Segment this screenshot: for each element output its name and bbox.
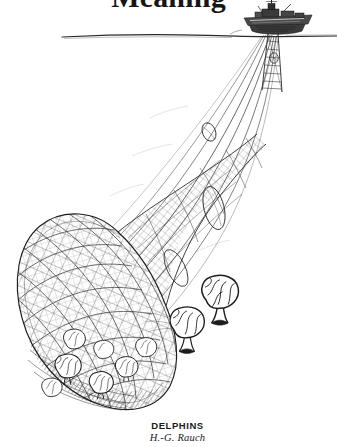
sea-surface-horizon (62, 35, 337, 39)
delphins-illustration (0, 0, 337, 447)
caption-artist-name: H.-G. Rauch (18, 432, 337, 444)
artwork-caption: DELPHINS H.-G. Rauch (0, 420, 337, 444)
trawler-ship (230, 0, 312, 35)
caption-work-title: DELPHINS (18, 420, 337, 431)
illustration-page: Meaning (0, 0, 337, 447)
